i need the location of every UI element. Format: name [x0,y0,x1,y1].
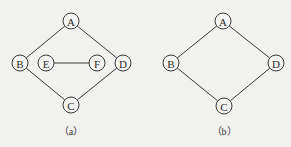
node-D: D [115,55,131,71]
caption-b: （b） [212,126,237,137]
edge-B-C [177,68,218,101]
node-label: F [94,58,100,70]
node-D: D [268,55,284,71]
edge-A-D [229,26,269,58]
edge-A-B [177,26,217,58]
node-label: E [43,58,50,70]
node-label: C [220,101,227,113]
node-A: A [215,13,231,29]
node-B: B [163,55,179,71]
node-F: F [89,55,105,71]
edge-B-C [26,68,65,100]
node-C: C [63,97,79,113]
graph-b: ABDC（b） [163,13,284,137]
node-label: B [16,58,23,70]
node-E: E [38,55,54,71]
node-label: B [167,58,174,70]
node-A: A [63,13,79,29]
graph-figure: ABEFDC（a）ABDC（b） [0,0,291,147]
node-label: D [119,58,127,70]
edge-C-D [230,68,270,101]
node-label: D [272,58,280,70]
caption-a: （a） [59,126,83,137]
edge-A-B [26,26,65,58]
graph-a: ABEFDC（a） [12,13,131,137]
edge-A-D [77,26,117,58]
node-label: C [67,100,74,112]
node-label: A [67,16,75,28]
node-label: A [219,16,227,28]
graph-diagrams: ABEFDC（a）ABDC（b） [0,0,291,147]
node-C: C [216,98,232,114]
node-B: B [12,55,28,71]
edge-C-D [77,68,117,100]
